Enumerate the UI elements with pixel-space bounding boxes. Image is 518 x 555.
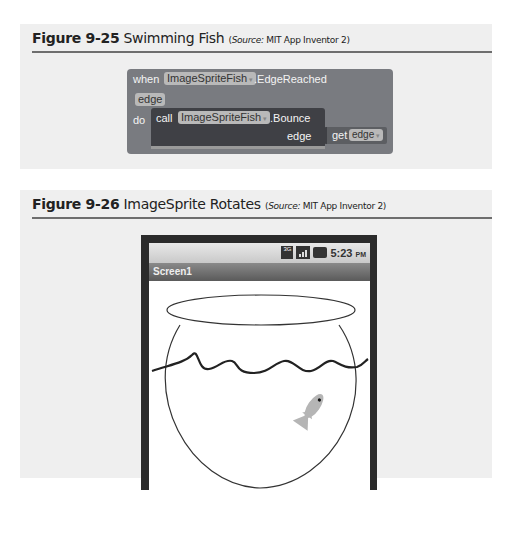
call-component-dropdown[interactable]: ImageSpriteFish▾: [178, 111, 270, 124]
app-title-bar: Screen1: [149, 263, 370, 281]
figure-source: (Source: MIT App Inventor 2): [265, 201, 386, 211]
screen-title: Screen1: [153, 266, 192, 277]
call-keyword: call: [156, 112, 173, 124]
figure-source: (Source: MIT App Inventor 2): [228, 35, 349, 45]
method-name: .Bounce: [270, 112, 310, 124]
dropdown-arrow-icon: ▾: [263, 115, 267, 122]
block-bottom-edge: [151, 146, 325, 149]
when-keyword: when: [133, 73, 159, 85]
get-keyword: get: [332, 129, 347, 141]
figure-caption: Figure 9-26 ImageSprite Rotates (Source:…: [32, 196, 386, 212]
dropdown-arrow-icon: ▾: [249, 76, 253, 83]
status-bar: 3G 5:23 PM: [149, 243, 370, 263]
network-3g-icon: 3G: [281, 246, 293, 259]
canvas[interactable]: [149, 281, 370, 490]
fish-sprite: [293, 389, 330, 430]
figure-number: Figure 9-26: [32, 196, 119, 212]
clock: 5:23 PM: [330, 247, 366, 259]
component-dropdown[interactable]: ImageSpriteFish▾: [164, 72, 256, 85]
fishbowl-image: [149, 281, 370, 490]
arg-label-edge: edge: [287, 130, 311, 142]
figure-caption: Figure 9-25 Swimming Fish (Source: MIT A…: [32, 30, 350, 46]
event-name: .EdgeReached: [254, 73, 327, 85]
dropdown-arrow-icon: ▾: [376, 132, 380, 139]
param-edge[interactable]: edge: [135, 93, 165, 106]
battery-icon: [313, 247, 327, 258]
signal-icon: [296, 246, 310, 259]
figure-number: Figure 9-25: [32, 30, 119, 46]
figure-title: Swimming Fish: [124, 30, 225, 46]
get-var-dropdown[interactable]: edge▾: [349, 129, 383, 141]
figure-title: ImageSprite Rotates: [124, 196, 261, 212]
do-keyword: do: [133, 114, 145, 126]
caption-rule: [32, 51, 492, 53]
caption-rule: [32, 217, 492, 219]
